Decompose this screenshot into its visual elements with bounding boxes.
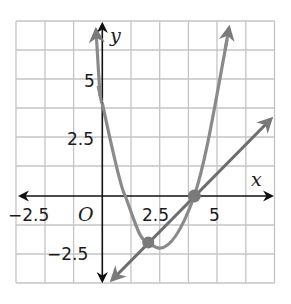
x-tick-label: 2.5 (142, 205, 169, 225)
parabola-right-arrow (225, 28, 229, 50)
x-axis-label: x (251, 168, 262, 190)
y-axis-label: y (109, 24, 121, 46)
intersection-point (142, 236, 154, 248)
x-tick-label: 5 (209, 205, 220, 225)
y-tick-label: 2.5 (67, 129, 94, 149)
parabola-left-arrow (96, 30, 100, 96)
graph: y x O −2.5 2.5 5 5 2.5 −2.5 (0, 0, 291, 304)
intersection-point (188, 190, 201, 203)
origin-label: O (78, 203, 94, 225)
y-tick-label: −2.5 (47, 244, 88, 264)
x-tick-label: −2.5 (8, 205, 49, 225)
y-tick-label: 5 (84, 71, 95, 91)
